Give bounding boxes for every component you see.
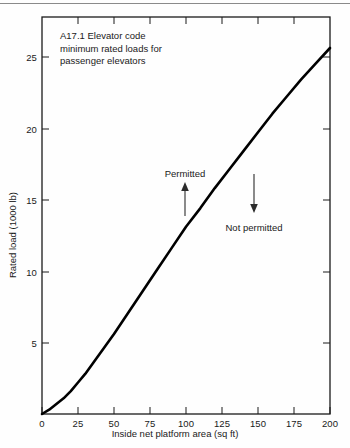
y-tick-label-25: 25 — [21, 52, 37, 63]
page-background: A17.1 Elevator code minimum rated loads … — [0, 0, 350, 448]
x-tick-label-25: 25 — [73, 418, 84, 429]
y-tick-label-15: 15 — [21, 195, 37, 206]
x-axis-ticks-top — [78, 17, 294, 24]
y-tick-label-5: 5 — [21, 338, 37, 349]
y-axis-ticks — [42, 57, 49, 343]
x-tick-label-175: 175 — [286, 418, 302, 429]
not-permitted-label: Not permitted — [225, 222, 282, 233]
x-tick-label-200: 200 — [322, 418, 338, 429]
permitted-arrow-icon — [181, 182, 189, 216]
not-permitted-arrow-icon — [250, 174, 258, 213]
x-axis-ticks — [42, 407, 330, 414]
x-tick-label-0: 0 — [39, 418, 44, 429]
y-axis-title: Rated load (1000 lb) — [7, 192, 18, 278]
y-tick-label-10: 10 — [21, 267, 37, 278]
x-tick-label-150: 150 — [250, 418, 266, 429]
y-axis-ticks-right — [323, 57, 330, 343]
chart-title-line-3: passenger elevators — [60, 55, 220, 68]
y-tick-label-20: 20 — [21, 124, 37, 135]
x-axis-title: Inside net platform area (sq ft) — [112, 428, 239, 439]
rated-load-curve — [42, 48, 330, 414]
chart-title-line-2: minimum rated loads for — [60, 43, 220, 56]
plot-frame — [42, 17, 330, 414]
chart-title: A17.1 Elevator code minimum rated loads … — [60, 30, 220, 68]
chart-title-line-1: A17.1 Elevator code — [60, 30, 220, 43]
permitted-label: Permitted — [165, 168, 206, 179]
elevator-load-chart: A17.1 Elevator code minimum rated loads … — [0, 0, 350, 448]
